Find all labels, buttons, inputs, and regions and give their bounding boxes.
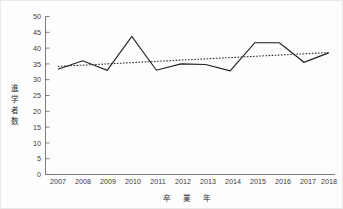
y-axis-title: 進 学 者 数 [11, 84, 19, 126]
y-tick-label: 35 [33, 60, 41, 69]
y-tick-label: 45 [33, 28, 41, 37]
y-tick-label: 10 [33, 139, 41, 148]
x-tick-labels: 2007 2008 2009 2010 2011 2012 2013 2014 … [50, 177, 337, 186]
x-tick-label: 2018 [321, 177, 337, 186]
y-axis-title-char: 数 [11, 116, 19, 126]
x-tick-label: 2011 [150, 177, 165, 186]
x-axis-title-char: 業 [183, 193, 191, 203]
y-tick-label: 40 [33, 44, 41, 53]
data-series-line [58, 36, 329, 70]
x-tick-label: 2016 [275, 177, 291, 186]
y-tick-labels: 0 5 10 15 20 25 30 35 40 45 50 [33, 12, 41, 179]
x-tick-label: 2007 [50, 177, 66, 186]
x-tick-label: 2008 [75, 177, 91, 186]
x-axis-title-char: 年 [203, 193, 211, 203]
x-tick-label: 2010 [125, 177, 141, 186]
y-tick-label: 15 [33, 123, 41, 132]
y-axis-title-char: 学 [11, 94, 19, 104]
x-axis-group: 2007 2008 2009 2010 2011 2012 2013 2014 … [46, 175, 338, 204]
x-axis-title-char: 卒 [163, 193, 171, 203]
y-tick-label: 0 [37, 170, 41, 179]
line-chart-canvas: 0 5 10 15 20 25 30 35 40 45 50 進 学 者 数 [1, 1, 343, 209]
x-tick-label: 2009 [100, 177, 116, 186]
y-tick-label: 30 [33, 75, 41, 84]
y-axis-title-char: 進 [11, 84, 19, 93]
x-tick-label: 2014 [225, 177, 241, 186]
y-axis-title-char: 者 [11, 106, 19, 115]
chart-figure: 0 5 10 15 20 25 30 35 40 45 50 進 学 者 数 [0, 0, 343, 209]
x-tick-label: 2015 [250, 177, 266, 186]
y-tick-label: 25 [33, 91, 41, 100]
y-tick-marks [46, 17, 50, 175]
y-axis-group: 0 5 10 15 20 25 30 35 40 45 50 進 学 者 数 [11, 12, 50, 179]
y-tick-label: 5 [37, 154, 41, 163]
x-tick-label: 2017 [300, 177, 316, 186]
y-tick-label: 50 [33, 12, 41, 21]
x-tick-label: 2013 [200, 177, 216, 186]
x-axis-title: 卒 業 年 [163, 193, 211, 203]
y-tick-label: 20 [33, 107, 41, 116]
x-tick-label: 2012 [175, 177, 191, 186]
